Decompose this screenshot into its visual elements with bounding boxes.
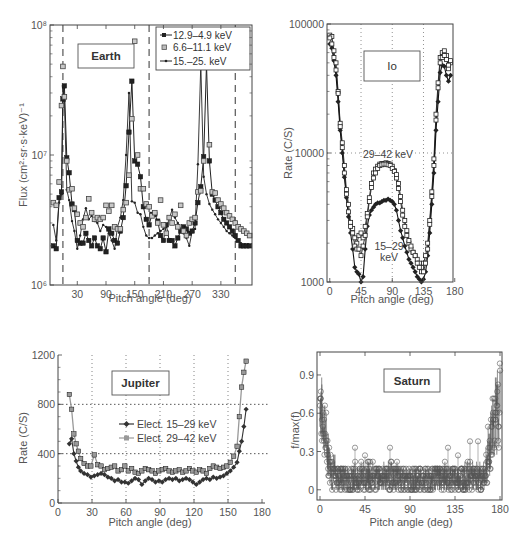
jupiter-x-tick-label: 30 <box>86 506 98 518</box>
filled-square-marker-icon <box>124 436 129 441</box>
saturn-x-tick-label: 45 <box>359 503 371 515</box>
saturn-x-tick-label: 0 <box>317 503 323 515</box>
earth-y-axis-title: Flux (cm²·sr·s·keV)⁻¹ <box>17 103 29 207</box>
saturn-panel-label: Saturn <box>394 375 430 387</box>
jupiter-legend-1: Elect. 15–29 keV <box>137 418 216 430</box>
figure: Earth 12.9–4.9 keV 6.6–11.1 keV 15.–25. … <box>0 0 527 542</box>
earth-y-tick-label: 10⁷ <box>32 149 48 161</box>
open-square-marker-icon <box>162 45 167 50</box>
dot-marker-icon <box>165 60 168 63</box>
earth-label-box: Earth <box>78 44 134 68</box>
saturn-panel: Saturn 0459013518000.30.60.9 Pitch angle… <box>289 352 509 528</box>
jupiter-x-tick-label: 0 <box>55 506 61 518</box>
io-panel-label: Io <box>387 60 397 72</box>
io-panel: Io 29–42 keV 15–29 keV 04590135180100010… <box>282 18 464 305</box>
jupiter-x-tick-label: 180 <box>253 506 271 518</box>
earth-x-tick-label: 330 <box>212 288 230 300</box>
saturn-label-box: Saturn <box>384 369 440 392</box>
io-annotation-low-2: keV <box>380 251 398 263</box>
jupiter-y-tick-label: 400 <box>37 448 55 460</box>
saturn-x-tick-label: 135 <box>446 503 464 515</box>
jupiter-y-tick-label: 0 <box>49 497 55 509</box>
io-label-box: Io <box>364 51 420 81</box>
earth-legend-2: 6.6–11.1 keV <box>173 42 232 53</box>
saturn-x-axis-title: Pitch angle (deg) <box>369 516 452 528</box>
io-y-axis-title: Rate (C/S) <box>282 127 294 179</box>
io-annotation-high: 29–42 keV <box>363 148 413 160</box>
io-x-axis-title: Pitch angle (deg) <box>350 293 433 305</box>
jupiter-y-axis-title: Rate (C/S) <box>17 412 29 464</box>
jupiter-label-box: Jupiter <box>112 371 169 395</box>
earth-x-axis-title: Pitch angle (deg) <box>108 292 191 304</box>
saturn-y-axis-title: f/max(f) <box>289 411 301 448</box>
jupiter-y-tick-label: 1200 <box>32 349 56 361</box>
io-y-tick-label: 100000 <box>289 18 324 30</box>
jupiter-legend-2: Elect. 29–42 keV <box>137 432 216 444</box>
filled-square-marker-icon <box>162 33 166 37</box>
jupiter-x-tick-label: 150 <box>219 506 237 518</box>
earth-panel: Earth 12.9–4.9 keV 6.6–11.1 keV 15.–25. … <box>17 19 252 304</box>
saturn-x-tick-label: 90 <box>404 503 416 515</box>
saturn-y-tick-label: 0 <box>308 484 314 496</box>
earth-legend: 12.9–4.9 keV 6.6–11.1 keV 15.–25. keV <box>156 27 250 70</box>
jupiter-y-tick-label: 800 <box>37 398 55 410</box>
saturn-y-tick-label: 0.3 <box>299 446 314 458</box>
earth-legend-1: 12.9–4.9 keV <box>173 30 232 41</box>
io-y-tick-label: 1000 <box>301 276 325 288</box>
earth-y-tick-label: 10⁶ <box>31 279 47 291</box>
saturn-x-tick-label: 180 <box>491 503 509 515</box>
jupiter-legend: Elect. 15–29 keV Elect. 29–42 keV <box>119 418 216 444</box>
io-x-tick-label: 0 <box>327 285 333 297</box>
earth-panel-label: Earth <box>91 50 120 62</box>
earth-x-tick-label: 30 <box>71 288 83 300</box>
saturn-y-tick-label: 0.6 <box>299 407 314 419</box>
earth-legend-3: 15.–25. keV <box>173 56 227 67</box>
saturn-y-tick-label: 0.9 <box>299 369 314 381</box>
jupiter-panel-label: Jupiter <box>121 377 160 389</box>
jupiter-x-axis-title: Pitch angle (deg) <box>108 516 191 528</box>
earth-y-tick-label: 10⁸ <box>31 19 47 31</box>
io-x-tick-label: 180 <box>446 285 464 297</box>
io-y-tick-label: 10000 <box>295 147 324 159</box>
filled-diamond-marker-icon <box>124 421 130 427</box>
jupiter-panel: Jupiter Elect. 15–29 keV Elect. 29–42 ke… <box>17 349 271 528</box>
